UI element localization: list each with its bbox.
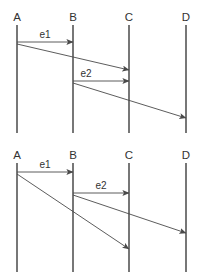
- sequence-diagram-figure: ABCDe1e2ABCDe1e2: [0, 0, 201, 280]
- message-label-e1: e1: [39, 159, 51, 170]
- message-label-e2: e2: [95, 180, 107, 191]
- participant-label-d: D: [182, 149, 190, 161]
- message-label-e2: e2: [80, 68, 92, 79]
- participant-label-a: A: [13, 149, 21, 161]
- diagram-canvas: ABCDe1e2ABCDe1e2: [0, 0, 201, 280]
- message-label-e1: e1: [39, 29, 51, 40]
- participant-label-a: A: [13, 11, 21, 23]
- participant-label-d: D: [182, 11, 190, 23]
- diagram-bottom: ABCDe1e2: [13, 149, 190, 272]
- participant-label-b: B: [69, 11, 77, 23]
- participant-label-c: C: [125, 11, 133, 23]
- diagram-top: ABCDe1e2: [13, 11, 190, 133]
- participant-label-c: C: [125, 149, 133, 161]
- participant-label-b: B: [69, 149, 77, 161]
